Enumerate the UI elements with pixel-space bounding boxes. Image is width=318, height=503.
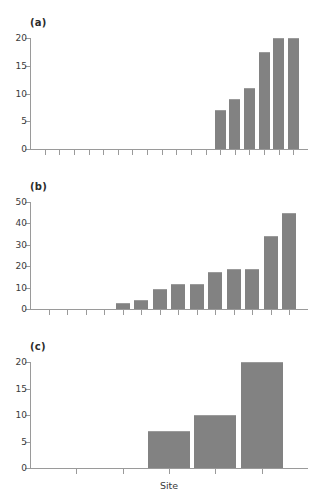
y-tick-label: 20 (16, 34, 27, 43)
bar (264, 236, 278, 309)
panel-a: (a) 05101520 (0, 0, 318, 172)
panel-a-x-axis (30, 149, 308, 150)
panel-a-x-tick (279, 150, 280, 155)
y-tick-label: 0 (21, 464, 27, 473)
bar (259, 52, 270, 149)
panel-a-x-tick (74, 150, 75, 155)
panel-b-x-tick (123, 310, 124, 315)
bar (215, 110, 226, 149)
y-tick-label: 10 (16, 411, 27, 420)
panel-c-x-tick (262, 469, 263, 474)
bar (227, 269, 241, 309)
bar (190, 284, 204, 309)
y-tick-label: 40 (16, 219, 27, 228)
panel-a-x-tick (132, 150, 133, 155)
bar (194, 415, 236, 468)
panel-a-x-tick (293, 150, 294, 155)
bar (153, 289, 167, 309)
y-tick-label: 15 (16, 61, 27, 70)
panel-b-x-tick (49, 310, 50, 315)
panel-b-x-tick (234, 310, 235, 315)
panel-a-label: (a) (30, 17, 47, 28)
y-tick-label: 5 (21, 437, 27, 446)
bar (229, 99, 240, 149)
panel-c: (c) 05101520 Site (0, 332, 318, 503)
panel-a-x-tick (264, 150, 265, 155)
bar (171, 284, 185, 309)
panel-b-x-axis (30, 309, 308, 310)
panel-a-x-tick (45, 150, 46, 155)
panel-b-x-tick (86, 310, 87, 315)
panel-b-x-tick (141, 310, 142, 315)
y-tick-label: 50 (16, 198, 27, 207)
panel-b-x-tick (289, 310, 290, 315)
panel-c-y-axis (30, 362, 31, 469)
bar (208, 272, 222, 309)
y-tick-label: 10 (16, 89, 27, 98)
panel-a-x-tick (176, 150, 177, 155)
panel-a-x-tick (220, 150, 221, 155)
panel-a-x-tick (59, 150, 60, 155)
panel-b-x-tick (67, 310, 68, 315)
x-axis-label: Site (30, 480, 308, 491)
panel-b-x-tick (252, 310, 253, 315)
panel-b: (b) 01020304050 (0, 172, 318, 332)
bar (241, 362, 283, 468)
bar (148, 431, 190, 468)
bar (245, 269, 259, 309)
panel-b-x-tick (178, 310, 179, 315)
panel-b-label: (b) (30, 181, 47, 192)
panel-c-label: (c) (30, 341, 46, 352)
bar (134, 300, 148, 309)
panel-c-x-tick (169, 469, 170, 474)
y-tick-label: 10 (16, 283, 27, 292)
panel-c-plot-area: 05101520 (30, 362, 308, 469)
panel-b-x-tick (271, 310, 272, 315)
panel-a-plot-area: 05101520 (30, 38, 308, 150)
panel-b-y-axis (30, 202, 31, 310)
panel-b-x-tick (104, 310, 105, 315)
bar (273, 38, 284, 149)
bar (282, 213, 296, 309)
panel-c-x-tick (76, 469, 77, 474)
y-tick-label: 0 (21, 145, 27, 154)
bar (116, 303, 130, 309)
y-tick-label: 0 (21, 305, 27, 314)
panel-a-x-tick (118, 150, 119, 155)
panel-b-x-tick (160, 310, 161, 315)
panel-a-x-tick (103, 150, 104, 155)
y-tick-label: 30 (16, 240, 27, 249)
y-tick-label: 5 (21, 117, 27, 126)
panel-a-y-axis (30, 38, 31, 150)
panel-b-x-tick (197, 310, 198, 315)
figure-bar-chart-panels: (a) 05101520 (b) 01020304050 (c) 0510152… (0, 0, 318, 503)
panel-a-x-tick (206, 150, 207, 155)
panel-a-x-tick (162, 150, 163, 155)
bar (244, 88, 255, 149)
y-tick-label: 20 (16, 358, 27, 367)
panel-a-x-tick (249, 150, 250, 155)
panel-b-plot-area: 01020304050 (30, 202, 308, 310)
bar (288, 38, 299, 149)
panel-b-x-tick (215, 310, 216, 315)
panel-c-x-tick (215, 469, 216, 474)
y-tick-label: 20 (16, 262, 27, 271)
panel-c-x-tick (123, 469, 124, 474)
panel-a-x-tick (147, 150, 148, 155)
panel-a-x-tick (191, 150, 192, 155)
panel-a-x-tick (89, 150, 90, 155)
panel-a-x-tick (235, 150, 236, 155)
y-tick-label: 15 (16, 384, 27, 393)
